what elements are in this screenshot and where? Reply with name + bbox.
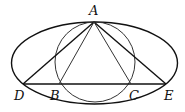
segment-ad [23, 22, 94, 84]
label-a: A [88, 3, 98, 18]
label-d: D [13, 88, 25, 103]
label-e: E [163, 88, 174, 103]
segment-ab [59, 22, 94, 84]
label-b: B [49, 88, 60, 103]
segment-ac [94, 22, 131, 84]
label-c: C [129, 88, 139, 103]
geometry-diagram: A B C D E [0, 0, 185, 112]
ellipse [12, 22, 178, 104]
circle [55, 22, 135, 102]
segment-ae [94, 22, 166, 84]
